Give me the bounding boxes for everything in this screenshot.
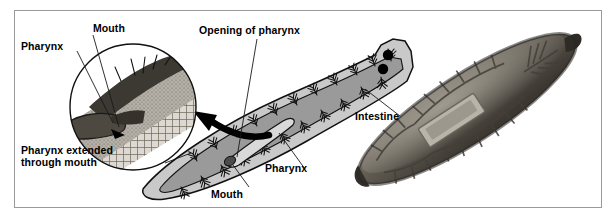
planarian-photograph-panel <box>336 11 603 207</box>
figure-frame: Mouth Pharynx Pharynx extended through m… <box>14 10 602 208</box>
label-mouth-main: Mouth <box>211 189 243 201</box>
planarian-anatomy-figure: Mouth Pharynx Pharynx extended through m… <box>0 0 616 221</box>
label-intestine: Intestine <box>355 111 399 123</box>
label-pharynx-main: Pharynx <box>265 163 307 175</box>
label-opening-of-pharynx: Opening of pharynx <box>199 25 300 37</box>
label-pharynx-inset: Pharynx <box>21 41 63 53</box>
label-pharynx-extended-through-mouth: Pharynx extended through mouth <box>21 145 113 168</box>
eyespot-left <box>383 50 393 60</box>
eyespot-right <box>378 64 388 74</box>
planarian-diagram-panel <box>15 11 603 207</box>
label-mouth-inset: Mouth <box>93 23 125 35</box>
